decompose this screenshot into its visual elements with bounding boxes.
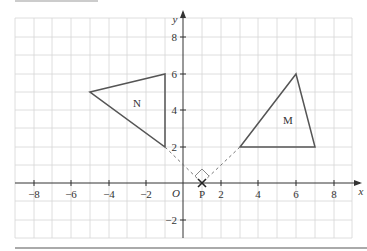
x-tick-label: −4 [103, 188, 115, 200]
y-tick-label: 2 [172, 141, 178, 153]
point-p-label: P [199, 188, 205, 200]
y-axis-arrow-icon [180, 10, 186, 18]
x-tick-label: −2 [140, 188, 152, 200]
y-axis-label: y [172, 13, 178, 25]
triangle-n [90, 74, 165, 147]
x-tick-label: 2 [218, 188, 224, 200]
x-tick-label: 8 [331, 188, 337, 200]
x-tick-label: −8 [28, 188, 40, 200]
y-tick-label: 6 [172, 68, 178, 80]
triangle-m-label: M [283, 114, 293, 126]
x-tick-label: −6 [65, 188, 77, 200]
axes [15, 12, 360, 238]
y-tick-label: 8 [172, 31, 178, 43]
y-tick-label: 4 [172, 104, 178, 116]
triangle-n-label: N [133, 97, 141, 109]
origin-label: O [172, 187, 180, 199]
y-tick-label: −2 [165, 214, 177, 226]
coordinate-grid-diagram: −8 −6 −4 −2 2 4 6 8 8 6 4 2 −2 O x y N M… [0, 0, 367, 251]
triangle-m [240, 74, 315, 147]
x-tick-label: 6 [293, 188, 299, 200]
x-axis-label: x [358, 185, 364, 197]
x-tick-label: 4 [255, 188, 261, 200]
